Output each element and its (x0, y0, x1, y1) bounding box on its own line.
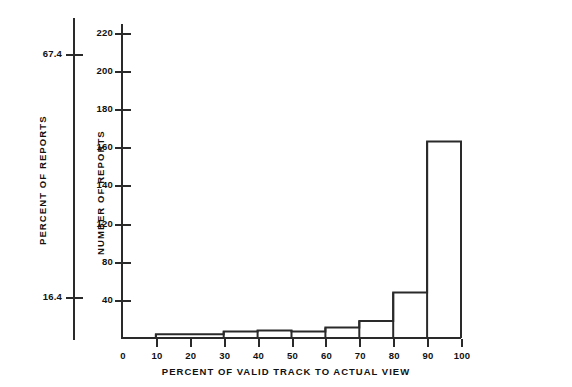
number-axis-tick-160 (115, 147, 131, 149)
x-axis-title: PERCENT OF VALID TRACK TO ACTUAL VIEW (0, 366, 572, 377)
x-axis-tick-label-20: 20 (176, 350, 206, 361)
x-axis-tick-label-30: 30 (210, 350, 240, 361)
x-axis-tick-label-60: 60 (311, 350, 341, 361)
percent-axis-tick-16 (66, 297, 83, 299)
x-axis-tick-50 (292, 339, 294, 347)
percent-axis-title: PERCENT OF REPORTS (37, 115, 48, 245)
x-axis-tick-30 (224, 339, 226, 347)
number-axis-tick-label-200: 200 (83, 65, 113, 76)
number-axis-tick-40 (115, 300, 131, 302)
percent-axis-tick-label-67: 67.4 (18, 48, 62, 59)
histogram-figure: 67.4 16.4 PERCENT OF REPORTS 22020018016… (0, 0, 572, 387)
number-axis-tick-200 (115, 71, 131, 73)
number-axis-tick-140 (115, 185, 131, 187)
x-axis-tick-20 (190, 339, 192, 347)
number-axis-tick-label-220: 220 (83, 27, 113, 38)
x-axis-tick-label-80: 80 (379, 350, 409, 361)
x-axis-tick-80 (393, 339, 395, 347)
x-axis-tick-label-40: 40 (244, 350, 274, 361)
x-axis-tick-label-70: 70 (345, 350, 375, 361)
percent-axis-tick-label-16: 16.4 (18, 291, 62, 302)
number-axis-tick-label-40: 40 (83, 294, 113, 305)
x-axis-tick-100 (461, 339, 463, 347)
x-axis-tick-40 (258, 339, 260, 347)
x-axis-tick-label-100: 100 (447, 350, 477, 361)
number-axis-tick-label-80: 80 (83, 256, 113, 267)
x-axis-tick-label-50: 50 (278, 350, 308, 361)
number-axis-title: NUMBER OF REPORTS (95, 130, 106, 255)
x-axis-tick-label-0: 0 (108, 350, 138, 361)
number-axis-tick-label-180: 180 (83, 103, 113, 114)
number-axis-tick-80 (115, 262, 131, 264)
x-axis-tick-label-10: 10 (142, 350, 172, 361)
number-axis-tick-220 (115, 33, 131, 35)
x-axis-tick-10 (156, 339, 158, 347)
x-axis-tick-70 (359, 339, 361, 347)
histogram-outline (122, 141, 461, 338)
histogram-bars (0, 0, 572, 387)
x-axis-tick-label-90: 90 (413, 350, 443, 361)
x-axis-tick-60 (325, 339, 327, 347)
x-axis-tick-90 (427, 339, 429, 347)
percent-axis-tick-67 (66, 54, 83, 56)
percent-axis-line (73, 18, 75, 340)
number-axis-tick-180 (115, 109, 131, 111)
number-axis-tick-120 (115, 224, 131, 226)
